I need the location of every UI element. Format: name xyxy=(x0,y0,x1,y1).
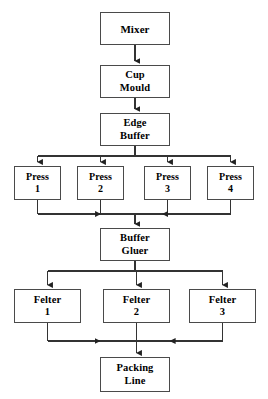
node-felter-2-label: Felter 2 xyxy=(121,294,152,319)
node-press-1[interactable]: Press 1 xyxy=(14,166,61,200)
node-press-3[interactable]: Press 3 xyxy=(144,166,191,200)
node-press-4[interactable]: Press 4 xyxy=(207,166,254,200)
node-mixer-label: Mixer xyxy=(118,23,151,35)
process-flow-diagram: Mixer Cup Mould Edge Buffer Press 1 Pres… xyxy=(0,0,268,399)
node-press-1-label: Press 1 xyxy=(24,171,51,195)
node-felter-1[interactable]: Felter 1 xyxy=(14,289,81,323)
node-felter-3-label: Felter 3 xyxy=(207,294,238,319)
node-press-2-label: Press 2 xyxy=(87,171,114,195)
node-felter-3[interactable]: Felter 3 xyxy=(189,289,256,323)
node-felter-1-label: Felter 1 xyxy=(32,294,63,319)
node-mixer[interactable]: Mixer xyxy=(100,12,170,45)
node-buffer-gluer-label: Buffer Gluer xyxy=(118,232,152,257)
node-edge-buffer-label: Edge Buffer xyxy=(118,117,152,142)
node-packing-line[interactable]: Packing Line xyxy=(100,357,170,392)
node-packing-line-label: Packing Line xyxy=(115,362,156,387)
node-press-4-label: Press 4 xyxy=(217,171,244,195)
node-press-3-label: Press 3 xyxy=(154,171,181,195)
node-press-2[interactable]: Press 2 xyxy=(77,166,124,200)
node-edge-buffer[interactable]: Edge Buffer xyxy=(100,113,170,146)
node-cup-mould-label: Cup Mould xyxy=(118,69,152,94)
node-cup-mould[interactable]: Cup Mould xyxy=(100,65,170,98)
node-felter-2[interactable]: Felter 2 xyxy=(103,289,170,323)
node-buffer-gluer[interactable]: Buffer Gluer xyxy=(100,228,170,261)
